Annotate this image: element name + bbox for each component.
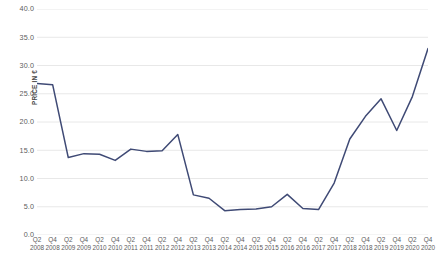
x-axis-tick: Q42020 [413,236,440,252]
x-axis-tick-year: 2020 [413,244,440,252]
y-axis-tick: 30.0 [0,62,34,69]
x-axis-tick-labels: Q22008Q42008Q22009Q42009Q22010Q42010Q220… [37,236,428,264]
y-axis-tick: 5.0 [0,203,34,210]
price-series-line [37,49,428,211]
gridlines [37,9,428,235]
plot-area [37,9,428,235]
y-axis-tick: 25.0 [0,90,34,97]
y-axis-tick: 10.0 [0,175,34,182]
y-axis-tick: 15.0 [0,147,34,154]
chart-svg [37,9,428,235]
y-axis-tick: 35.0 [0,34,34,41]
y-axis-tick: 40.0 [0,5,34,12]
y-axis-tick: 20.0 [0,118,34,125]
y-axis-tick-labels: 40.035.030.025.020.015.010.05.00.0 [0,0,34,240]
x-axis-tick-quarter: Q4 [413,236,440,244]
